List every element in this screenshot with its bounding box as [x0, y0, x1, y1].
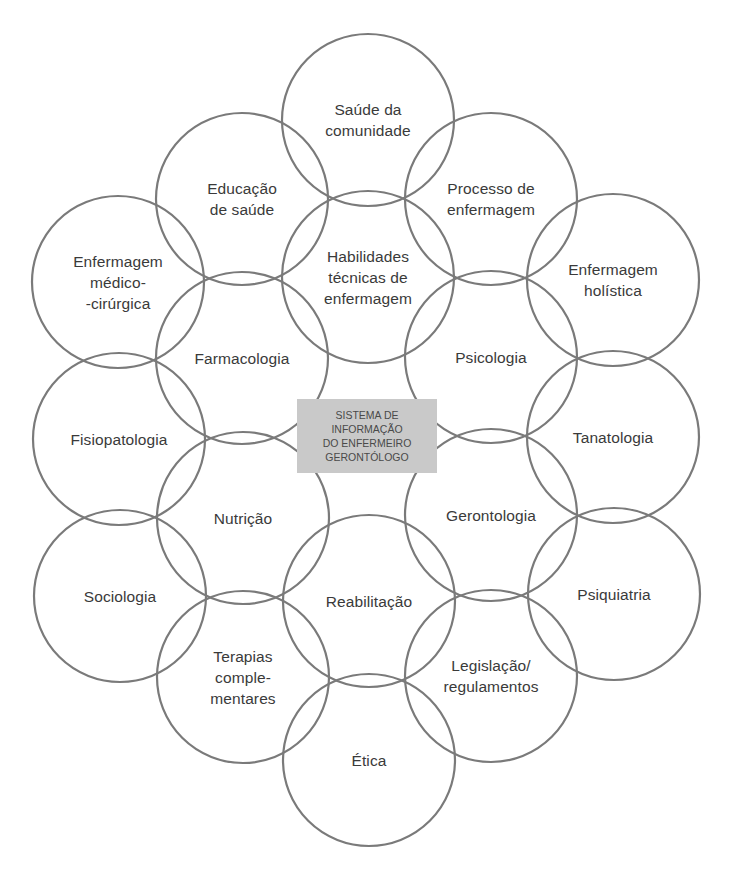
circle-label-educacao-saude: Educaçãode saúde: [207, 178, 277, 220]
circle-label-line: Processo de: [447, 178, 535, 199]
circle-label-terapias-complementares: Terapiascomple-mentares: [210, 646, 275, 709]
circle-label-line: Sociologia: [84, 586, 157, 607]
circle-label-line: Nutrição: [214, 508, 273, 529]
circle-label-line: Gerontologia: [446, 505, 536, 526]
circle-label-line: Ética: [352, 750, 387, 771]
circle-label-farmacologia: Farmacologia: [194, 348, 289, 369]
knowledge-circles-diagram: Saúde dacomunidadeEducaçãode saúdeProces…: [0, 0, 730, 873]
circle-label-line: Terapias: [210, 646, 275, 667]
circle-label-line: Enfermagem: [73, 251, 163, 272]
center-label-line: INFORMAÇÃO: [323, 422, 412, 436]
circle-label-enfermagem-medico-cirurgica: Enfermagemmédico--cirúrgica: [73, 251, 163, 314]
circle-label-line: comunidade: [325, 120, 410, 141]
circle-label-psiquiatria: Psiquiatria: [577, 584, 650, 605]
circle-label-line: -cirúrgica: [73, 293, 163, 314]
circle-label-line: Habilidades: [324, 246, 412, 267]
center-label-line: DO ENFERMEIRO: [323, 436, 412, 450]
center-label-line: GERONTÓLOGO: [323, 450, 412, 464]
circle-label-gerontologia: Gerontologia: [446, 505, 536, 526]
circle-label-line: Tanatologia: [573, 427, 653, 448]
circle-label-nutricao: Nutrição: [214, 508, 273, 529]
circle-label-fisiopatologia: Fisiopatologia: [70, 429, 167, 450]
circle-label-processo-enfermagem: Processo deenfermagem: [447, 178, 535, 220]
circle-label-line: técnicas de: [324, 267, 412, 288]
circle-label-tanatologia: Tanatologia: [573, 427, 653, 448]
circle-label-line: Saúde da: [325, 99, 410, 120]
circle-label-line: Reabilitação: [326, 591, 413, 612]
circle-label-line: Fisiopatologia: [70, 429, 167, 450]
circle-label-line: Enfermagem: [568, 259, 658, 280]
circle-label-psicologia: Psicologia: [455, 347, 527, 368]
circle-label-line: médico-: [73, 272, 163, 293]
circle-label-sociologia: Sociologia: [84, 586, 157, 607]
circle-label-line: Educação: [207, 178, 277, 199]
circle-label-line: comple-: [210, 667, 275, 688]
circle-label-reabilitacao: Reabilitação: [326, 591, 413, 612]
center-label: SISTEMA DE INFORMAÇÃO DO ENFERMEIRO GERO…: [323, 408, 412, 464]
circle-label-habilidades-tecnicas: Habilidadestécnicas deenfermagem: [324, 246, 412, 309]
center-label-line: SISTEMA DE: [323, 408, 412, 422]
circle-label-enfermagem-holistica: Enfermagemholística: [568, 259, 658, 301]
circle-label-line: Farmacologia: [194, 348, 289, 369]
circle-label-line: enfermagem: [324, 288, 412, 309]
circle-label-line: enfermagem: [447, 199, 535, 220]
circle-label-line: holística: [568, 280, 658, 301]
circle-label-line: Psicologia: [455, 347, 527, 368]
circle-label-legislacao-regulamentos: Legislação/regulamentos: [443, 655, 538, 697]
circle-label-line: Psiquiatria: [577, 584, 650, 605]
circle-label-line: regulamentos: [443, 676, 538, 697]
circle-label-etica: Ética: [352, 750, 387, 771]
circle-label-line: Legislação/: [443, 655, 538, 676]
circle-label-line: mentares: [210, 688, 275, 709]
circle-label-line: de saúde: [207, 199, 277, 220]
circle-label-saude-comunidade: Saúde dacomunidade: [325, 99, 410, 141]
